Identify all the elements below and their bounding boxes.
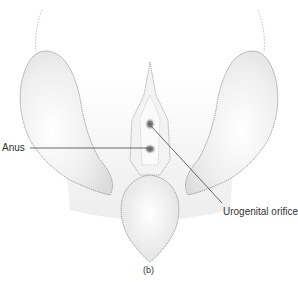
left-leg-outline	[36, 10, 42, 52]
right-leg-outline	[258, 10, 264, 52]
diagram: Anus Urogenital orifice (b)	[0, 0, 298, 285]
tail	[121, 175, 179, 262]
urogenital-orifice-label: Urogenital orifice	[223, 207, 298, 217]
perineum-illustration	[0, 0, 298, 285]
anus-label: Anus	[2, 143, 25, 153]
anus	[144, 144, 156, 154]
figure-caption: (b)	[143, 266, 154, 275]
